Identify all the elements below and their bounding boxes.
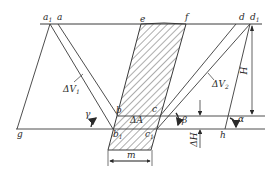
slope-a1-b1 <box>50 24 113 129</box>
label-alpha: α <box>238 115 244 124</box>
label-d1-sub: 1 <box>256 16 260 23</box>
label-beta: β <box>182 116 187 125</box>
label-e: e <box>140 15 145 24</box>
label-a1-sub: 1 <box>48 16 52 23</box>
label-delta-v1: ΔV1 <box>63 85 80 95</box>
h-top-arrow <box>250 25 254 31</box>
beta-arc <box>176 113 179 125</box>
label-d: d <box>239 13 245 22</box>
label-a1: a1 <box>43 13 52 23</box>
diagram-canvas: a1 a e f d d1 b b1 c c1 g h ΔV1 ΔV2 ΔA H… <box>0 0 279 172</box>
label-c1: c1 <box>145 130 154 140</box>
label-delta-v2: ΔV2 <box>212 80 229 90</box>
label-h: h <box>220 131 226 140</box>
label-d1: d1 <box>250 13 260 23</box>
label-b1: b1 <box>113 130 123 140</box>
label-f: f <box>185 13 188 22</box>
label-b: b <box>116 106 122 115</box>
label-b1-sub: 1 <box>119 133 123 140</box>
dv1-leader <box>74 74 83 82</box>
label-a: a <box>57 13 62 22</box>
label-c1-sub: 1 <box>150 133 154 140</box>
label-delta-v2-sub: 2 <box>225 83 229 90</box>
label-delta-a: ΔA <box>130 116 143 125</box>
label-delta-v1-main: ΔV <box>63 84 76 94</box>
label-delta-v2-main: ΔV <box>212 79 225 89</box>
label-m: m <box>127 151 136 160</box>
label-c: c <box>152 105 157 114</box>
label-delta-v1-sub: 1 <box>76 88 80 95</box>
gamma-arc <box>91 118 96 127</box>
cross-section-drawing <box>0 0 279 172</box>
label-gamma: γ <box>85 110 90 119</box>
line-a1-g <box>17 24 50 129</box>
alpha-arc <box>230 118 236 127</box>
slope-a-b <box>58 24 118 116</box>
label-delta-h: ΔH <box>190 132 199 146</box>
label-h-height: H <box>240 67 249 75</box>
label-g: g <box>17 130 23 139</box>
